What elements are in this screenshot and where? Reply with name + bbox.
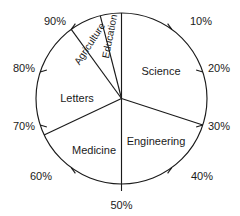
tick-label-10pct: 10% <box>190 15 212 27</box>
tick-label-30pct: 30% <box>208 120 230 132</box>
pie-chart: 10% 20% 30% 40% 50% 60% 70% 80% 90% Scie… <box>0 0 240 216</box>
divider-30pct <box>122 99 203 125</box>
tick-label-20pct: 20% <box>208 62 230 74</box>
tick-label-50pct: 50% <box>110 199 132 211</box>
tick-label-40pct: 40% <box>191 170 213 182</box>
slice-label-letters: Letters <box>60 92 94 104</box>
tick-label-90pct: 90% <box>44 15 66 27</box>
slice-label-medicine: Medicine <box>72 144 116 156</box>
slice-label-education: Education <box>100 13 119 59</box>
slice-label-engineering: Engineering <box>127 135 186 147</box>
pie-chart-canvas: 10% 20% 30% 40% 50% 60% 70% 80% 90% Scie… <box>0 0 240 216</box>
tick-label-80pct: 80% <box>13 62 35 74</box>
slice-label-science: Science <box>141 65 180 77</box>
tick-label-70pct: 70% <box>13 120 35 132</box>
tick-label-60pct: 60% <box>30 170 52 182</box>
